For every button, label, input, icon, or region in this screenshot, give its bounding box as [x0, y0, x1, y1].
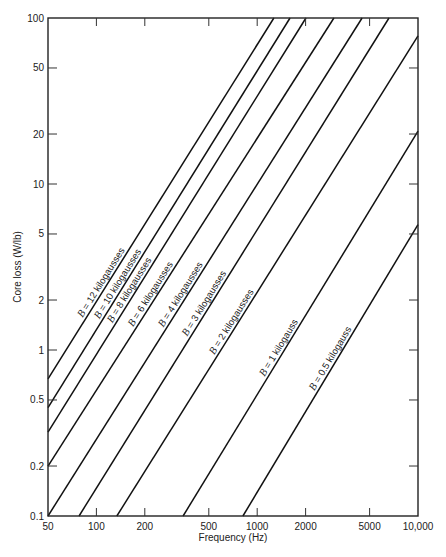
- x-tick-label: 500: [200, 521, 217, 532]
- x-tick-label: 100: [88, 521, 105, 532]
- core-loss-curve: [48, 18, 362, 516]
- y-tick-label: 0.2: [30, 461, 44, 472]
- y-tick-label: 2: [38, 295, 44, 306]
- core-loss-chart: B = 12 kilogaussesB = 10 kilogaussesB = …: [0, 0, 446, 557]
- y-tick-label: 5: [38, 228, 44, 239]
- y-tick-label: 10: [33, 179, 45, 190]
- y-tick-label: 1: [38, 345, 44, 356]
- y-axis-title: Core loss (W/lb): [12, 231, 23, 303]
- y-tick-label: 0.5: [30, 394, 44, 405]
- curve-label: B = 1 kilogauss: [257, 317, 300, 378]
- svg-text:B = 1 kilogauss: B = 1 kilogauss: [257, 317, 300, 378]
- x-tick-label: 10,000: [403, 521, 434, 532]
- curve-label-group: B = 12 kilogaussesB = 10 kilogaussesB = …: [75, 245, 354, 392]
- y-tick-label: 50: [33, 62, 45, 73]
- x-tick-label: 50: [42, 521, 54, 532]
- curve-label: B = 0.5 kilogauss: [307, 324, 354, 392]
- core-loss-curve: [48, 18, 290, 408]
- x-tick-label: 5000: [358, 521, 381, 532]
- y-axis-ticks: 0.10.20.5125102050100: [27, 13, 418, 522]
- x-tick-label: 1000: [246, 521, 269, 532]
- x-tick-label: 2000: [294, 521, 317, 532]
- x-axis-title: Frequency (Hz): [199, 532, 268, 543]
- y-tick-label: 20: [33, 129, 45, 140]
- y-tick-label: 0.1: [30, 511, 44, 522]
- core-loss-curve: [183, 131, 418, 516]
- svg-text:B = 0.5 kilogauss: B = 0.5 kilogauss: [307, 324, 354, 392]
- y-tick-label: 100: [27, 13, 44, 24]
- x-tick-label: 200: [136, 521, 153, 532]
